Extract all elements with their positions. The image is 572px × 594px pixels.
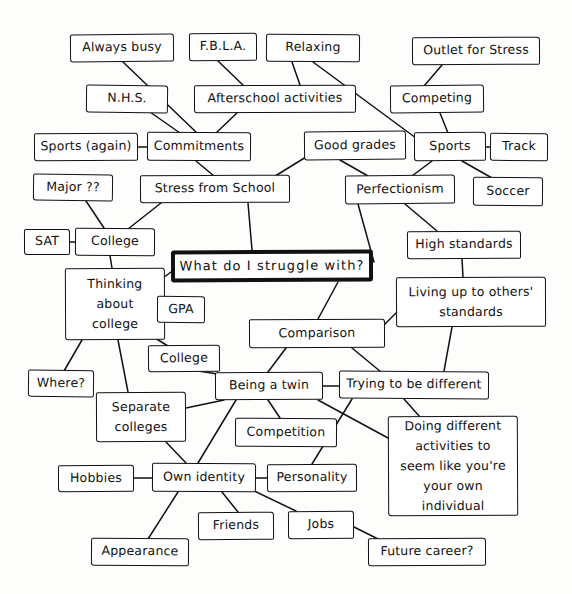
node-label: Friends (203, 517, 269, 534)
connector-major-to-college_top (86, 201, 104, 228)
connector-being_a_twin-to-own_identity (198, 400, 236, 463)
node-stress_from_school[interactable]: Stress from School (140, 175, 290, 204)
node-future_career[interactable]: Future career? (368, 538, 486, 567)
node-label: College (80, 233, 150, 250)
mind-map-canvas: Always busyF.B.L.A.RelaxingOutlet for St… (0, 0, 572, 594)
connector-separate_colleges-to-own_identity (166, 442, 186, 463)
connector-sports-to-soccer (462, 161, 492, 178)
node-label-line: standards (401, 301, 541, 322)
connector-competing-to-sports (440, 113, 448, 133)
node-label: Being a twin (220, 377, 318, 394)
node-label-line: college (70, 313, 160, 333)
connector-outlet_for_stress-to-competing (424, 65, 442, 86)
connector-perfectionism-to-high_standards (405, 204, 437, 231)
node-label: SAT (29, 233, 65, 250)
node-perfectionism[interactable]: Perfectionism (345, 175, 455, 205)
node-college_mid[interactable]: College (148, 345, 220, 373)
node-label: Comparison (254, 324, 380, 341)
node-own_identity[interactable]: Own identity (152, 463, 256, 493)
node-personality[interactable]: Personality (267, 464, 357, 492)
node-label: Future career? (373, 543, 481, 560)
node-label: College (153, 349, 215, 366)
connector-nhs-to-commitments (150, 112, 180, 133)
node-label: Major ?? (38, 178, 108, 196)
node-good_grades[interactable]: Good grades (304, 131, 406, 161)
node-label-line: Separate (101, 396, 181, 416)
connector-college_top-to-thinking_college (110, 256, 112, 268)
node-label: Separatecolleges (101, 396, 181, 436)
node-label: Hobbies (63, 469, 129, 486)
node-label-line: your own individual (393, 475, 513, 516)
node-college_top[interactable]: College (75, 228, 155, 257)
node-label: Own identity (157, 468, 251, 486)
node-soccer[interactable]: Soccer (473, 177, 543, 206)
node-friends[interactable]: Friends (198, 512, 274, 541)
node-jobs[interactable]: Jobs (288, 511, 354, 539)
node-label: Living up to others'standards (401, 281, 541, 322)
node-sports_again[interactable]: Sports (again) (34, 133, 138, 161)
connector-being_a_twin-to-separate_colleges (186, 400, 224, 408)
connector-relaxing-to-afterschool (292, 62, 300, 85)
node-living_up[interactable]: Living up to others'standards (396, 277, 546, 328)
node-afterschool[interactable]: Afterschool activities (194, 85, 356, 114)
node-label: Trying to be different (344, 376, 484, 394)
central-node-central[interactable]: What do I struggle with? (171, 250, 373, 283)
node-label-line: about (70, 293, 160, 313)
node-label: Outlet for Stress (417, 42, 535, 59)
connector-commitments-to-stress_from_school (196, 161, 214, 176)
node-label: Personality (272, 469, 352, 486)
node-label: Sports (again) (39, 138, 133, 155)
node-comparison[interactable]: Comparison (249, 319, 385, 349)
node-trying_different[interactable]: Trying to be different (339, 370, 489, 399)
node-relaxing[interactable]: Relaxing (266, 34, 360, 63)
node-label-line: seem like you're (393, 455, 513, 476)
node-high_standards[interactable]: High standards (407, 231, 521, 259)
node-sports[interactable]: Sports (414, 132, 486, 161)
connector-trying_different-to-doing_different (404, 399, 420, 417)
node-appearance[interactable]: Appearance (91, 538, 189, 567)
node-hobbies[interactable]: Hobbies (58, 465, 134, 492)
node-thinking_college[interactable]: Thinkingaboutcollege (65, 268, 165, 340)
node-label-line: activities to (393, 435, 513, 456)
connector-thinking_college-to-where (64, 340, 82, 371)
connector-fbla-to-afterschool (218, 61, 244, 86)
node-label: Track (495, 138, 543, 155)
node-nhs[interactable]: N.H.S. (86, 85, 168, 114)
node-label: Sports (419, 137, 481, 154)
node-doing_different[interactable]: Doing differentactivities toseem like yo… (388, 416, 518, 517)
node-separate_colleges[interactable]: Separatecolleges (96, 392, 186, 442)
node-label: F.B.L.A. (194, 38, 252, 55)
node-sat[interactable]: SAT (24, 229, 70, 255)
node-label-line: Doing different (393, 415, 513, 436)
node-always_busy[interactable]: Always busy (70, 34, 174, 63)
node-outlet_for_stress[interactable]: Outlet for Stress (412, 37, 540, 66)
node-label: Competing (395, 90, 479, 108)
node-label-line: Thinking (70, 273, 160, 293)
node-major[interactable]: Major ?? (33, 174, 113, 202)
node-commitments[interactable]: Commitments (147, 132, 251, 162)
node-label: Soccer (478, 182, 538, 199)
node-competition[interactable]: Competition (235, 418, 337, 448)
node-label: Always busy (75, 39, 169, 57)
connector-afterschool-to-commitments (216, 112, 238, 133)
node-label: N.H.S. (91, 90, 163, 108)
node-label: Where? (33, 374, 89, 392)
node-gpa[interactable]: GPA (157, 296, 205, 323)
node-track[interactable]: Track (490, 133, 548, 161)
node-label: Relaxing (271, 39, 355, 56)
connector-own_identity-to-friends (222, 492, 238, 512)
node-where[interactable]: Where? (28, 370, 94, 398)
connector-stress_from_school-to-central (248, 203, 252, 250)
connector-comparison-to-trying_different (352, 348, 381, 372)
node-label: Perfectionism (350, 180, 450, 198)
node-being_a_twin[interactable]: Being a twin (215, 372, 323, 400)
node-label: Stress from School (145, 180, 285, 197)
connector-high_standards-to-living_up (462, 259, 463, 277)
connector-living_up-to-trying_different (444, 327, 452, 371)
node-label: High standards (412, 236, 516, 253)
node-competing[interactable]: Competing (390, 85, 484, 114)
node-label-line: colleges (101, 416, 181, 436)
node-label: Appearance (96, 543, 184, 560)
connector-thinking_college-to-separate_colleges (118, 340, 128, 392)
node-fbla[interactable]: F.B.L.A. (189, 33, 257, 61)
